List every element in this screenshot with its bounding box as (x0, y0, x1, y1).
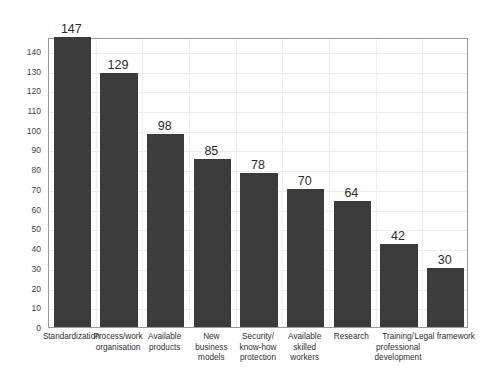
x-axis-category-label-line: New (195, 332, 227, 343)
y-axis-tick-label: 90 (32, 145, 41, 155)
y-axis-tick-label: 0 (36, 323, 41, 333)
x-axis-category-label-line: Research (334, 332, 369, 343)
bar-value-label: 147 (61, 22, 82, 36)
bar-value-label: 30 (438, 253, 452, 267)
x-axis-category-label: Availableskilledworkers (288, 332, 321, 364)
y-axis-tick-label: 100 (27, 126, 41, 136)
y-axis-tick-label: 120 (27, 86, 41, 96)
x-axis-category-label-line: Available (148, 332, 181, 343)
x-axis-category-label: Availableproducts (148, 332, 181, 353)
y-axis-tick-label: 20 (32, 284, 41, 294)
y-axis: 0102030405060708090100110120130140 (0, 38, 44, 328)
y-axis-tick-label: 80 (32, 165, 41, 175)
x-axis-category-label-line: skilled (288, 343, 321, 354)
x-axis-category-label-line: development (375, 353, 422, 364)
y-axis-tick-label: 70 (32, 185, 41, 195)
x-axis-category-label: Legal framework (414, 332, 475, 343)
y-axis-tick-label: 40 (32, 244, 41, 254)
x-axis-category-label: Security/know-howprotection (240, 332, 277, 364)
x-axis-category-label-line: protection (240, 353, 277, 364)
y-axis-tick-label: 60 (32, 205, 41, 215)
x-axis-category-label-line: professional (375, 343, 422, 354)
x-axis-category-label-line: organisation (93, 343, 142, 354)
x-axis-category-label-line: products (148, 343, 181, 354)
value-labels: 14712998857870644230 (48, 0, 468, 330)
y-axis-tick-label: 140 (27, 47, 41, 57)
x-axis-category-labels: StandardizationProcess/workorganisationA… (48, 332, 468, 380)
bar-value-label: 42 (391, 229, 405, 243)
bar-value-label: 85 (204, 144, 218, 158)
y-axis-tick-label: 50 (32, 224, 41, 234)
x-axis-category-label-line: Process/work (93, 332, 142, 343)
x-axis-category-label-line: Legal framework (414, 332, 475, 343)
x-axis-category-label-line: Standardization (43, 332, 100, 343)
x-axis-category-label: Research (334, 332, 369, 343)
bar-value-label: 78 (251, 158, 265, 172)
x-axis-category-label: Process/workorganisation (93, 332, 142, 353)
x-axis-category-label-line: Available (288, 332, 321, 343)
y-axis-tick-label: 130 (27, 67, 41, 77)
bar-value-label: 64 (344, 186, 358, 200)
x-axis-category-label-line: models (195, 353, 227, 364)
x-axis-category-label: Standardization (43, 332, 100, 343)
bar-chart: 0102030405060708090100110120130140 14712… (0, 0, 489, 380)
x-axis-category-label-line: workers (288, 353, 321, 364)
x-axis-category-label-line: Security/ (240, 332, 277, 343)
x-axis-category-label: Newbusinessmodels (195, 332, 227, 364)
bar-value-label: 98 (158, 119, 172, 133)
bar-value-label: 70 (298, 174, 312, 188)
x-axis-category-label-line: business (195, 343, 227, 354)
y-axis-tick-label: 10 (32, 303, 41, 313)
y-axis-tick-label: 30 (32, 264, 41, 274)
bar-value-label: 129 (108, 58, 129, 72)
y-axis-tick-label: 110 (27, 106, 41, 116)
x-axis-category-label-line: know-how (240, 343, 277, 354)
